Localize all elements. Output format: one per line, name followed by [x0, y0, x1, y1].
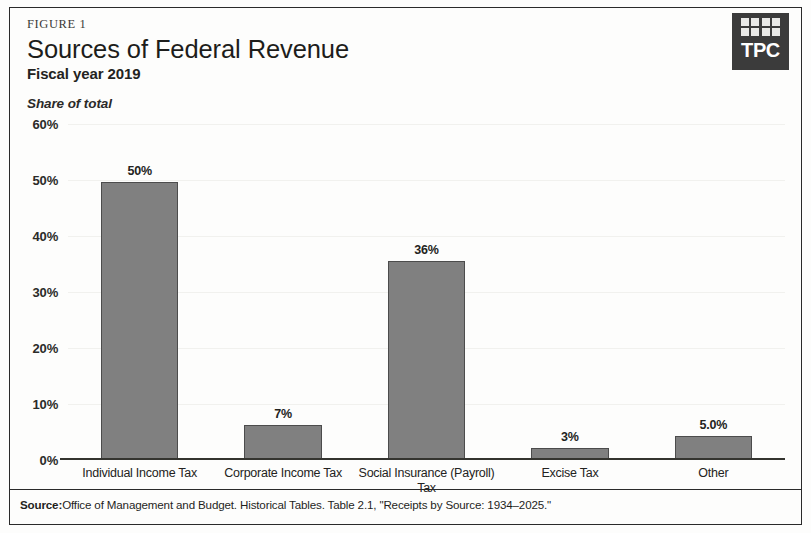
- bar[interactable]: 36%: [388, 261, 465, 460]
- bar-series: 50%7%36%3%5.0%: [68, 124, 785, 460]
- y-axis: 0%10%20%30%40%50%60%: [18, 124, 58, 460]
- y-axis-tick: 60%: [33, 117, 58, 132]
- bar-slot: 50%: [68, 124, 211, 460]
- bar-value-label: 5.0%: [699, 418, 727, 432]
- figure-header: FIGURE 1 Sources of Federal Revenue Fisc…: [27, 18, 667, 83]
- source-note: Source:Office of Management and Budget. …: [20, 498, 791, 512]
- logo-grid-cell: [772, 28, 780, 36]
- bar-value-label: 3%: [561, 430, 579, 444]
- bar-slot: 36%: [355, 124, 498, 460]
- y-axis-tick: 0%: [40, 453, 58, 468]
- figure-subtitle: Fiscal year 2019: [27, 65, 667, 83]
- source-prefix: Source:: [20, 498, 62, 511]
- logo-grid-icon: [741, 18, 780, 36]
- chart-plot: 0%10%20%30%40%50%60% 50%7%36%3%5.0%: [18, 124, 793, 460]
- source-divider: [10, 489, 801, 490]
- tpc-logo: TPC: [732, 13, 789, 70]
- logo-grid-cell: [751, 28, 759, 36]
- logo-grid-cell: [762, 18, 770, 26]
- figure-container: FIGURE 1 Sources of Federal Revenue Fisc…: [0, 0, 811, 533]
- x-axis-tick-label: Individual Income Tax: [68, 466, 211, 496]
- logo-grid-cell: [751, 18, 759, 26]
- source-text: Office of Management and Budget. Histori…: [62, 498, 551, 511]
- bar[interactable]: 50%: [101, 182, 178, 460]
- bar-slot: 5.0%: [642, 124, 785, 460]
- logo-grid-cell: [772, 18, 780, 26]
- bar[interactable]: 7%: [244, 425, 321, 460]
- y-axis-tick: 10%: [33, 397, 58, 412]
- bar-value-label: 36%: [414, 243, 438, 257]
- plot-area: 50%7%36%3%5.0%: [68, 124, 785, 460]
- bar-value-label: 50%: [127, 164, 151, 178]
- logo-grid-cell: [741, 28, 749, 36]
- x-axis-line: [60, 458, 785, 460]
- y-axis-caption: Share of total: [27, 96, 112, 111]
- x-axis-tick-label: Other: [642, 466, 785, 496]
- x-axis-labels: Individual Income TaxCorporate Income Ta…: [68, 466, 785, 496]
- bar[interactable]: 5.0%: [675, 436, 752, 460]
- y-axis-tick: 40%: [33, 229, 58, 244]
- page-title: Sources of Federal Revenue: [27, 35, 667, 64]
- y-axis-tick: 50%: [33, 173, 58, 188]
- x-axis-tick-label: Social Insurance (Payroll) Tax: [355, 466, 498, 496]
- bar-slot: 3%: [498, 124, 641, 460]
- x-axis-tick-label: Corporate Income Tax: [211, 466, 354, 496]
- logo-text: TPC: [741, 40, 780, 60]
- y-axis-tick: 20%: [33, 341, 58, 356]
- bar-slot: 7%: [211, 124, 354, 460]
- x-axis-tick-label: Excise Tax: [498, 466, 641, 496]
- bar-value-label: 7%: [274, 407, 292, 421]
- logo-grid-cell: [762, 28, 770, 36]
- logo-grid-cell: [741, 18, 749, 26]
- y-axis-tick: 30%: [33, 285, 58, 300]
- figure-kicker: FIGURE 1: [27, 18, 667, 32]
